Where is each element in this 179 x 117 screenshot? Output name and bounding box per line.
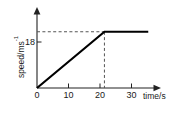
- speed-time-line: [37, 32, 148, 88]
- x-axis-ticks: [69, 84, 132, 89]
- y-axis-arrow-icon: [34, 7, 41, 15]
- x-axis-title: time/s: [143, 91, 166, 101]
- y-axis-title-text: speed/ms: [16, 41, 26, 78]
- x-tick-label-20: 20: [93, 90, 108, 100]
- x-tick-label-30: 30: [124, 90, 139, 100]
- speed-time-graph-figure: 18 speed/ms-1 0 10 20 30 time/s: [0, 0, 179, 117]
- y-axis-title: speed/ms-1: [10, 20, 28, 94]
- y-axis-title-superscript: -1: [13, 36, 19, 41]
- x-tick-label-0: 0: [32, 90, 42, 100]
- y-axis: [34, 7, 41, 88]
- x-tick-label-10: 10: [61, 90, 76, 100]
